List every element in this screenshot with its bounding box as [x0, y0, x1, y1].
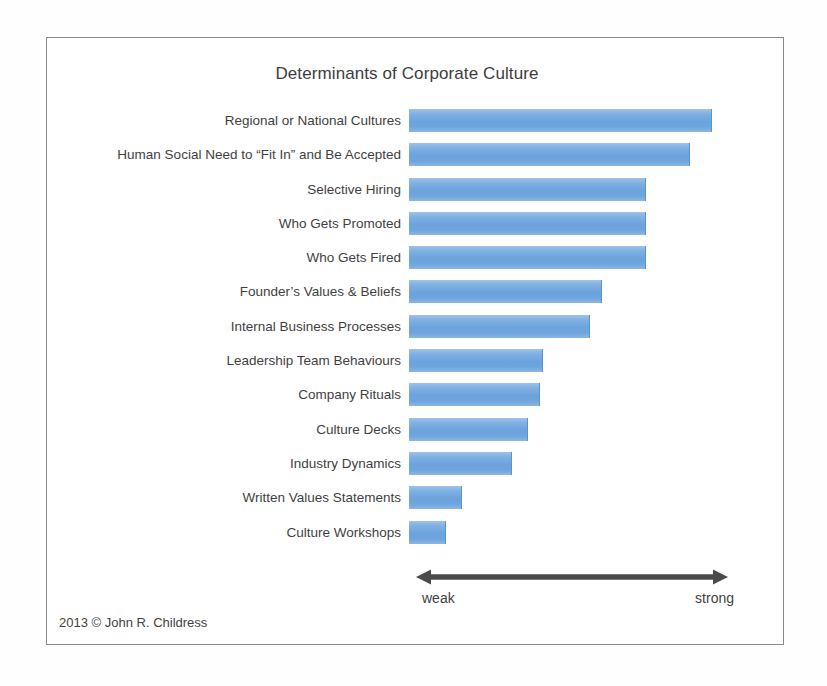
bar-fill: [409, 143, 690, 166]
bar-row: Culture Workshops: [47, 521, 783, 555]
bar-row: Culture Decks: [47, 418, 783, 452]
bar-category-label: Leadership Team Behaviours: [226, 349, 401, 372]
bar-fill: [409, 383, 540, 406]
bar-row: Written Values Statements: [47, 486, 783, 520]
axis-label-strong: strong: [695, 590, 734, 606]
bar-category-label: Regional or National Cultures: [225, 109, 401, 132]
copyright-credit: 2013 © John R. Childress: [59, 615, 207, 630]
bar-row: Founder’s Values & Beliefs: [47, 280, 783, 314]
bar-category-label: Company Rituals: [298, 383, 401, 406]
bar-fill: [409, 246, 646, 269]
bar-row: Leadership Team Behaviours: [47, 349, 783, 383]
bar-track: [409, 109, 721, 132]
bar-category-label: Culture Workshops: [286, 521, 401, 544]
bar-row: Human Social Need to “Fit In” and Be Acc…: [47, 143, 783, 177]
chart-title-text: Determinants of Corporate Culture: [275, 64, 538, 84]
bar-track: [409, 143, 721, 166]
bar-fill: [409, 486, 462, 509]
bar-category-label: Who Gets Fired: [306, 246, 401, 269]
bar-category-label: Human Social Need to “Fit In” and Be Acc…: [117, 143, 401, 166]
page-title: Determinants of Corporate Culture: [47, 64, 783, 84]
bar-row: Industry Dynamics: [47, 452, 783, 486]
bar-track: [409, 418, 721, 441]
bar-track: [409, 521, 721, 544]
bar-row: Who Gets Fired: [47, 246, 783, 280]
weak-strong-axis-arrow: [416, 568, 728, 586]
bar-row: Who Gets Promoted: [47, 212, 783, 246]
bar-fill: [409, 349, 543, 372]
axis-label-weak: weak: [422, 590, 455, 606]
axis-scale-labels: weak strong: [416, 590, 734, 610]
double-headed-arrow-icon: [416, 568, 728, 586]
bar-track: [409, 246, 721, 269]
bar-category-label: Selective Hiring: [307, 178, 401, 201]
bar-fill: [409, 109, 712, 132]
bar-chart-plot-area: Regional or National CulturesHuman Socia…: [47, 109, 783, 555]
bar-row: Regional or National Cultures: [47, 109, 783, 143]
bar-fill: [409, 280, 602, 303]
bar-fill: [409, 521, 446, 544]
bar-category-label: Culture Decks: [316, 418, 401, 441]
bar-fill: [409, 315, 590, 338]
bar-fill: [409, 178, 646, 201]
bar-track: [409, 383, 721, 406]
bar-fill: [409, 418, 528, 441]
bar-track: [409, 315, 721, 338]
bar-track: [409, 212, 721, 235]
bar-row: Company Rituals: [47, 383, 783, 417]
bar-category-label: Founder’s Values & Beliefs: [240, 280, 401, 303]
scanned-page: Determinants of Corporate Culture Region…: [0, 0, 827, 686]
bar-fill: [409, 452, 512, 475]
bar-track: [409, 280, 721, 303]
slide-frame: Determinants of Corporate Culture Region…: [46, 37, 784, 645]
bar-category-label: Written Values Statements: [242, 486, 401, 509]
bar-track: [409, 178, 721, 201]
bar-category-label: Who Gets Promoted: [279, 212, 401, 235]
bar-fill: [409, 212, 646, 235]
bar-category-label: Industry Dynamics: [290, 452, 401, 475]
bar-track: [409, 486, 721, 509]
bar-row: Internal Business Processes: [47, 315, 783, 349]
bar-track: [409, 452, 721, 475]
bar-category-label: Internal Business Processes: [231, 315, 401, 338]
bar-track: [409, 349, 721, 372]
bar-row: Selective Hiring: [47, 178, 783, 212]
